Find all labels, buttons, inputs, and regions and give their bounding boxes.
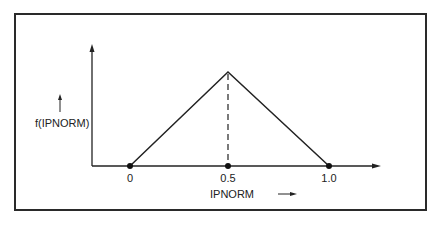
x-axis-label: IPNORM	[210, 188, 254, 200]
x-axis-arrow-icon	[372, 164, 381, 169]
point-0	[127, 163, 133, 169]
point-0-5	[225, 163, 231, 169]
y-axis-label: f(IPNORM)	[35, 117, 89, 129]
tick-label-1-0: 1.0	[321, 172, 336, 184]
tick-label-0-5: 0.5	[220, 172, 235, 184]
point-1-0	[326, 163, 332, 169]
x-label-arrowhead-icon	[290, 192, 297, 196]
y-axis-arrow-icon	[90, 44, 95, 52]
y-label-arrowhead-icon	[58, 94, 62, 100]
triangle-curve	[130, 72, 329, 166]
tick-label-0: 0	[127, 172, 133, 184]
